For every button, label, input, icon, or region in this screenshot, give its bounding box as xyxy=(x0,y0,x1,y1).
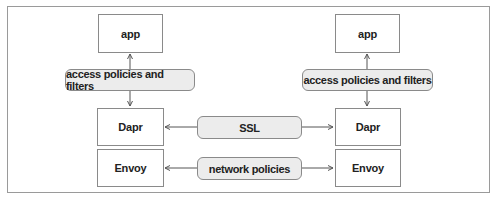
network-policies-pill: network policies xyxy=(197,157,302,180)
ssl-label: SSL xyxy=(239,122,260,134)
left-envoy-label: Envoy xyxy=(114,162,146,174)
right-dapr-label: Dapr xyxy=(356,121,380,133)
right-filter-pill: access policies and filters xyxy=(302,69,433,91)
left-filter-pill: access policies and filters xyxy=(65,69,195,91)
right-dapr-box: Dapr xyxy=(335,108,401,146)
left-dapr-box: Dapr xyxy=(97,108,164,146)
left-app-label: app xyxy=(121,28,140,40)
right-app-label: app xyxy=(358,28,377,40)
right-envoy-box: Envoy xyxy=(335,149,401,187)
right-filter-label: access policies and filters xyxy=(303,74,431,86)
left-app-box: app xyxy=(98,14,163,53)
right-envoy-label: Envoy xyxy=(352,162,384,174)
network-policies-label: network policies xyxy=(209,163,290,175)
left-envoy-box: Envoy xyxy=(97,149,164,187)
left-filter-label: access policies and filters xyxy=(66,68,194,92)
ssl-pill: SSL xyxy=(197,116,302,139)
left-dapr-label: Dapr xyxy=(118,121,142,133)
right-app-box: app xyxy=(335,14,400,53)
